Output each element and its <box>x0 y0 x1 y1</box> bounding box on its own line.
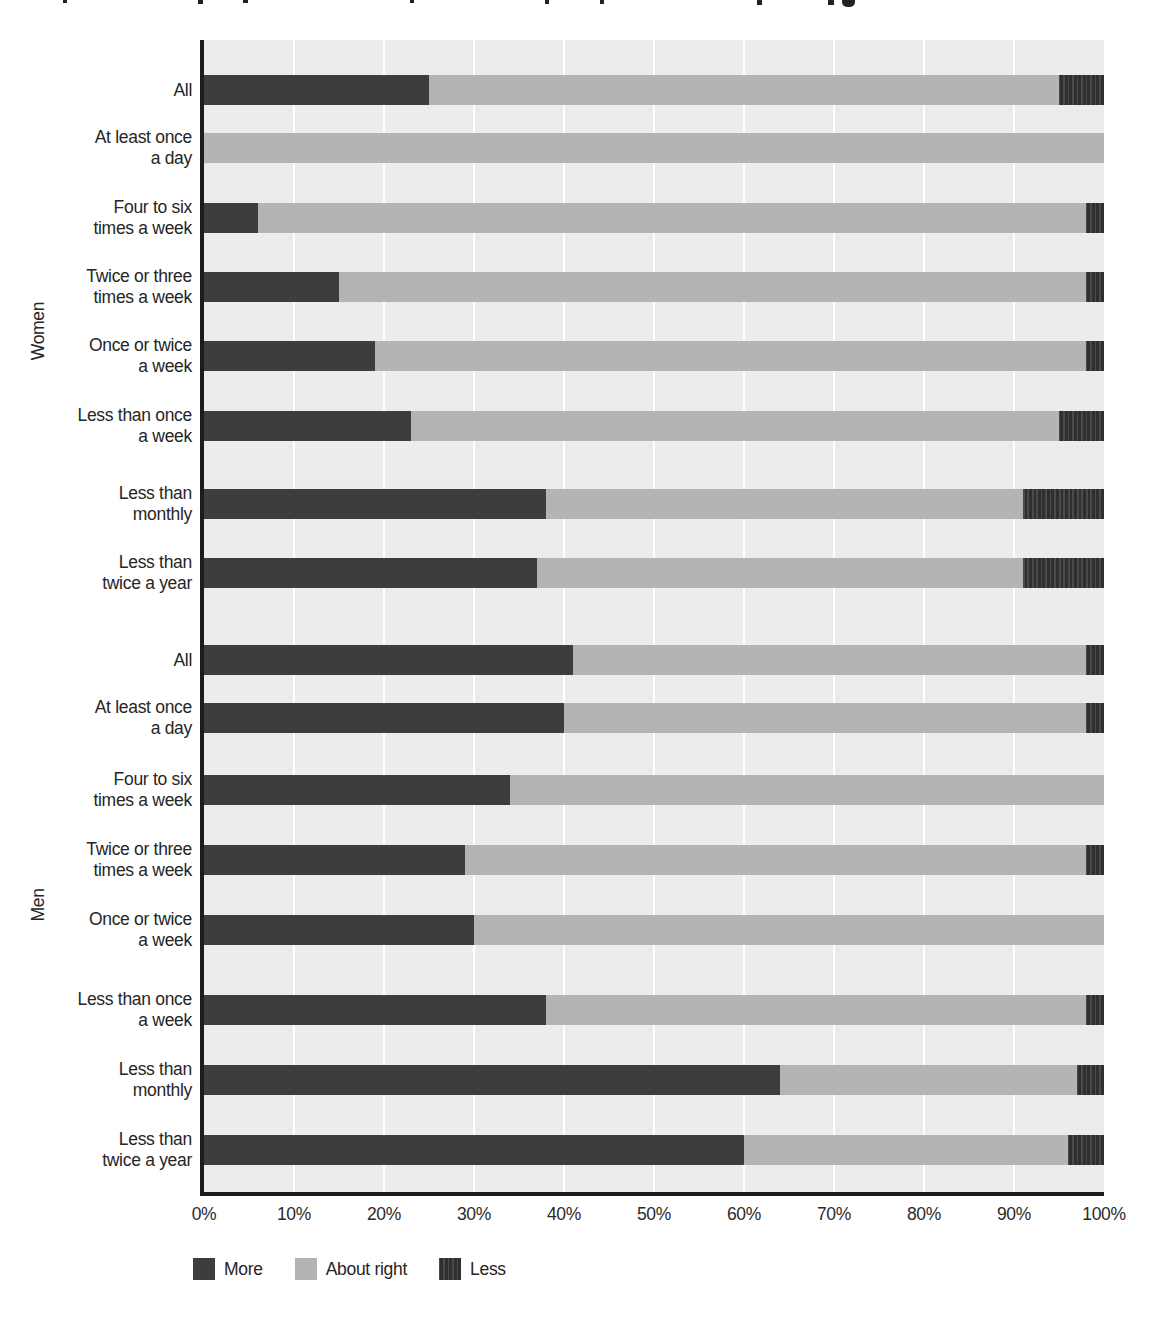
segment-less <box>1059 75 1104 105</box>
category-label: Less thanmonthly <box>0 1059 192 1101</box>
segment-about-right <box>465 845 1086 875</box>
x-tick-label: 70% <box>799 1204 869 1225</box>
cropped-title-fragment <box>410 0 414 3</box>
cropped-title-fragment <box>757 0 762 5</box>
segment-about-right <box>564 703 1086 733</box>
cropped-title-fragment <box>842 0 855 7</box>
category-label: At least oncea day <box>0 697 192 739</box>
bar-men-4 <box>204 845 1104 875</box>
segment-less <box>1077 1065 1104 1095</box>
legend-label: Less <box>470 1259 506 1280</box>
segment-more <box>204 341 375 371</box>
legend-swatch <box>439 1258 461 1280</box>
x-tick-label: 30% <box>439 1204 509 1225</box>
cropped-title-fragment <box>545 0 549 4</box>
segment-about-right <box>204 133 1104 163</box>
segment-about-right <box>537 558 1023 588</box>
category-label: Twice or threetimes a week <box>0 839 192 881</box>
segment-about-right <box>510 775 1104 805</box>
bar-women-7 <box>204 489 1104 519</box>
segment-less <box>1086 995 1104 1025</box>
segment-about-right <box>780 1065 1077 1095</box>
legend: MoreAbout rightLess <box>193 1258 506 1280</box>
cropped-title-fragment <box>243 0 248 3</box>
legend-item-more: More <box>193 1258 263 1280</box>
bar-men-3 <box>204 775 1104 805</box>
bar-men-5 <box>204 915 1104 945</box>
segment-less <box>1059 411 1104 441</box>
segment-about-right <box>546 489 1023 519</box>
category-label: All <box>0 80 192 101</box>
segment-more <box>204 703 564 733</box>
chart-canvas: AllAt least oncea dayFour to sixtimes a … <box>0 0 1158 1327</box>
cropped-title-fragment <box>198 0 203 4</box>
bar-women-6 <box>204 411 1104 441</box>
category-label: Less than oncea week <box>0 405 192 447</box>
segment-more <box>204 411 411 441</box>
x-tick-label: 0% <box>169 1204 239 1225</box>
segment-about-right <box>375 341 1086 371</box>
bar-men-6 <box>204 995 1104 1025</box>
segment-less <box>1086 703 1104 733</box>
cropped-title-fragment <box>63 0 67 3</box>
category-label: Less thantwice a year <box>0 552 192 594</box>
category-label: Four to sixtimes a week <box>0 197 192 239</box>
segment-less <box>1068 1135 1104 1165</box>
segment-about-right <box>546 995 1086 1025</box>
group-label-women: Women <box>28 302 49 360</box>
segment-less <box>1086 341 1104 371</box>
segment-more <box>204 203 258 233</box>
category-label: At least oncea day <box>0 127 192 169</box>
segment-more <box>204 1065 780 1095</box>
x-tick-label: 20% <box>349 1204 419 1225</box>
bar-women-8 <box>204 558 1104 588</box>
segment-more <box>204 845 465 875</box>
group-label-men: Men <box>28 888 49 921</box>
segment-about-right <box>429 75 1059 105</box>
segment-about-right <box>258 203 1086 233</box>
segment-about-right <box>744 1135 1068 1165</box>
segment-more <box>204 558 537 588</box>
segment-less <box>1086 845 1104 875</box>
segment-less <box>1023 558 1104 588</box>
segment-more <box>204 645 573 675</box>
segment-more <box>204 995 546 1025</box>
segment-more <box>204 1135 744 1165</box>
category-label: Less thantwice a year <box>0 1129 192 1171</box>
segment-about-right <box>411 411 1059 441</box>
legend-swatch <box>295 1258 317 1280</box>
bar-women-3 <box>204 203 1104 233</box>
segment-less <box>1023 489 1104 519</box>
x-tick-label: 10% <box>259 1204 329 1225</box>
legend-label: About right <box>326 1259 407 1280</box>
x-tick-label: 90% <box>979 1204 1049 1225</box>
x-tick-label: 100% <box>1069 1204 1139 1225</box>
segment-more <box>204 75 429 105</box>
legend-item-about-right: About right <box>295 1258 407 1280</box>
x-tick-label: 60% <box>709 1204 779 1225</box>
bar-women-1 <box>204 75 1104 105</box>
legend-label: More <box>224 1259 263 1280</box>
segment-more <box>204 489 546 519</box>
bar-women-4 <box>204 272 1104 302</box>
bar-women-5 <box>204 341 1104 371</box>
bar-men-1 <box>204 645 1104 675</box>
category-label: All <box>0 650 192 671</box>
category-label: Less than oncea week <box>0 989 192 1031</box>
segment-less <box>1086 203 1104 233</box>
segment-more <box>204 775 510 805</box>
segment-about-right <box>339 272 1086 302</box>
plot-area <box>200 40 1104 1196</box>
category-label: Less thanmonthly <box>0 483 192 525</box>
segment-less <box>1086 272 1104 302</box>
segment-about-right <box>573 645 1086 675</box>
bar-women-2 <box>204 133 1104 163</box>
segment-less <box>1086 645 1104 675</box>
bar-men-7 <box>204 1065 1104 1095</box>
bar-men-2 <box>204 703 1104 733</box>
cropped-title-fragment <box>600 0 604 4</box>
x-tick-label: 40% <box>529 1204 599 1225</box>
legend-swatch <box>193 1258 215 1280</box>
x-tick-label: 80% <box>889 1204 959 1225</box>
cropped-title-fragment <box>828 0 834 5</box>
